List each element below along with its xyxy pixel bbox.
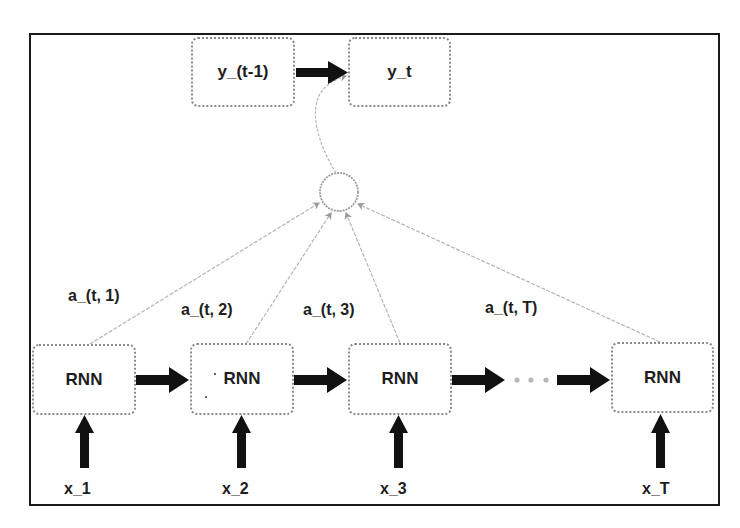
attention-weight-label-T: a_(t, T): [485, 299, 537, 317]
artifact-dot: [205, 396, 207, 398]
rnn-cell-T-label: RNN: [644, 368, 681, 388]
rnn-cell-2: RNN: [190, 343, 294, 415]
output-node-y-t: y_t: [348, 37, 451, 107]
output-label-y-t: y_t: [387, 62, 412, 82]
rnn-cell-1-label: RNN: [66, 370, 103, 390]
input-label-x2: x_2: [222, 480, 249, 498]
rnn-cell-2-label: RNN: [224, 369, 261, 389]
rnn-cell-T: RNN: [611, 342, 714, 413]
input-label-x1: x_1: [64, 480, 91, 498]
attention-weight-label-2: a_(t, 2): [181, 301, 233, 319]
output-node-y-prev: y_(t-1): [191, 37, 295, 107]
rnn-cell-1: RNN: [32, 344, 136, 415]
input-label-xT: x_T: [642, 480, 670, 498]
attention-weight-label-3: a_(t, 3): [303, 301, 355, 319]
artifact-dot: [214, 373, 216, 375]
attention-weight-label-1: a_(t, 1): [68, 287, 120, 305]
rnn-cell-3: RNN: [348, 343, 452, 415]
output-label-y-prev: y_(t-1): [217, 62, 268, 82]
rnn-cell-3-label: RNN: [382, 369, 419, 389]
input-label-x3: x_3: [380, 480, 407, 498]
